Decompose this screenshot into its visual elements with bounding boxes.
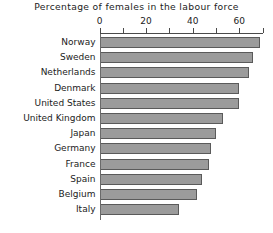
bar-row: United States [0,97,273,110]
bar-japan [100,128,216,139]
bar-united-states [100,98,240,109]
category-label-sweden: Sweden [60,51,96,64]
category-label-italy: Italy [76,203,96,216]
bar-france [100,159,209,170]
bar-spain [100,174,202,185]
category-label-belgium: Belgium [59,188,96,201]
bars-group: NorwaySwedenNetherlandsDenmarkUnited Sta… [0,0,273,233]
category-label-united-kingdom: United Kingdom [23,112,95,125]
category-label-france: France [66,158,96,171]
category-label-denmark: Denmark [54,82,95,95]
category-label-spain: Spain [70,173,95,186]
bar-row: Italy [0,203,273,216]
bar-italy [100,204,179,215]
bar-row: France [0,158,273,171]
category-label-norway: Norway [61,36,95,49]
bar-row: Sweden [0,51,273,64]
bar-row: Germany [0,142,273,155]
bar-row: Norway [0,36,273,49]
bar-row: Spain [0,173,273,186]
bar-row: Belgium [0,188,273,201]
bar-netherlands [100,67,249,78]
category-label-germany: Germany [54,142,95,155]
category-axis-line [100,34,101,220]
bar-germany [100,143,212,154]
category-label-japan: Japan [70,127,95,140]
category-label-united-states: United States [35,97,96,110]
bar-belgium [100,189,198,200]
category-label-netherlands: Netherlands [41,66,96,79]
bar-sweden [100,52,254,63]
bar-united-kingdom [100,113,223,124]
bar-row: Netherlands [0,66,273,79]
bar-chart: Percentage of females in the labour forc… [0,0,273,233]
bar-norway [100,37,261,48]
bar-row: Japan [0,127,273,140]
bar-denmark [100,83,240,94]
bar-row: Denmark [0,82,273,95]
bar-row: United Kingdom [0,112,273,125]
